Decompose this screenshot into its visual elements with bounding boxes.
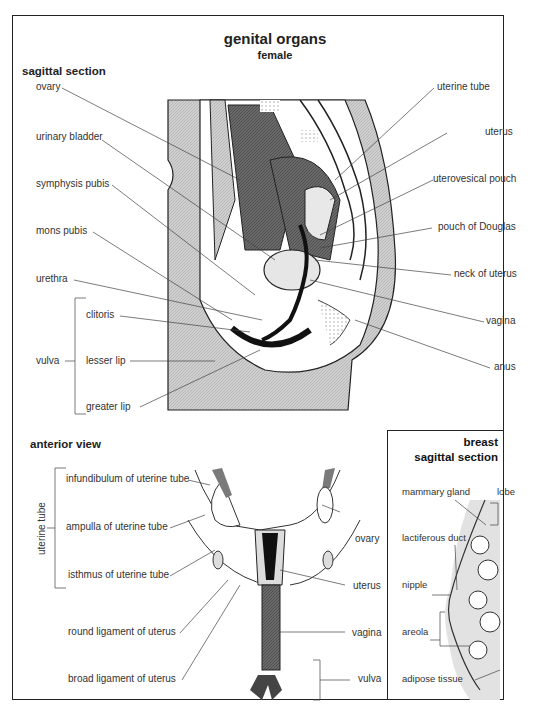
- label-ovary: ovary: [36, 81, 60, 92]
- breast-heading: breast: [400, 436, 498, 448]
- anterior-view-drawing: [188, 468, 360, 700]
- label-urethra: urethra: [36, 273, 68, 284]
- label-lobe: lobe: [497, 486, 515, 497]
- label-vagina: vagina: [486, 315, 515, 326]
- label-nipple: nipple: [402, 579, 427, 590]
- label-vulva: vulva: [36, 355, 59, 366]
- label-anterior-vulva: vulva: [358, 673, 381, 684]
- breast-subheading: sagittal section: [400, 451, 498, 463]
- anterior-leader-lines: [47, 468, 350, 700]
- label-anus: anus: [494, 361, 516, 372]
- breast-panel: [387, 430, 504, 700]
- label-lesser-lip: lesser lip: [86, 355, 125, 366]
- sagittal-heading: sagittal section: [22, 65, 106, 77]
- label-symphysis-pubis: symphysis pubis: [36, 178, 109, 189]
- label-uterus: uterus: [485, 126, 513, 137]
- label-isthmus: isthmus of uterine tube: [68, 569, 169, 580]
- label-adipose-tissue: adipose tissue: [402, 673, 463, 684]
- label-urinary-bladder: urinary bladder: [36, 131, 103, 142]
- label-mammary-gland: mammary gland: [402, 486, 470, 497]
- label-anterior-uterus: uterus: [353, 580, 381, 591]
- label-uterovesical-pouch: uterovesical pouch: [433, 173, 516, 184]
- label-infundibulum: infundibulum of uterine tube: [66, 473, 189, 484]
- label-broad-ligament: broad ligament of uterus: [68, 673, 176, 684]
- label-ampulla: ampulla of uterine tube: [66, 521, 168, 532]
- label-neck-of-uterus: neck of uterus: [454, 268, 517, 279]
- label-anterior-ovary: ovary: [355, 533, 379, 544]
- label-mons-pubis: mons pubis: [36, 225, 87, 236]
- label-uterine-tube-group: uterine tube: [36, 502, 47, 555]
- label-lactiferous-duct: lactiferous duct: [402, 532, 466, 543]
- label-uterine-tube: uterine tube: [437, 81, 490, 92]
- label-pouch-of-douglas: pouch of Douglas: [438, 221, 516, 232]
- anterior-heading: anterior view: [30, 438, 101, 450]
- label-anterior-vagina: vagina: [352, 627, 381, 638]
- sagittal-section-drawing: [168, 100, 395, 410]
- label-round-ligament: round ligament of uterus: [68, 626, 176, 637]
- label-areola: areola: [402, 626, 428, 637]
- label-clitoris: clitoris: [86, 309, 114, 320]
- label-greater-lip: greater lip: [86, 401, 130, 412]
